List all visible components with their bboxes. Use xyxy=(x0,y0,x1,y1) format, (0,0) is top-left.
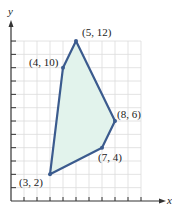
vertex-label: (7, 4) xyxy=(98,151,122,164)
y-axis-label: y xyxy=(7,5,13,17)
vertex-point xyxy=(74,39,78,43)
vertex-label: (4, 10) xyxy=(29,56,59,69)
vertex-point xyxy=(61,66,65,70)
y-axis-arrow-icon xyxy=(9,20,14,27)
vertex-point xyxy=(100,146,104,150)
x-axis-label: x xyxy=(166,194,172,204)
vertex-label: (8, 6) xyxy=(117,108,141,121)
x-axis-arrow-icon xyxy=(159,199,166,204)
vertex-point xyxy=(48,172,52,176)
vertex-label: (5, 12) xyxy=(82,26,112,39)
polygon-region-plot: x y (3, 2)(4, 10)(5, 12)(8, 6)(7, 4) xyxy=(0,0,172,204)
vertex-label: (3, 2) xyxy=(19,176,43,189)
